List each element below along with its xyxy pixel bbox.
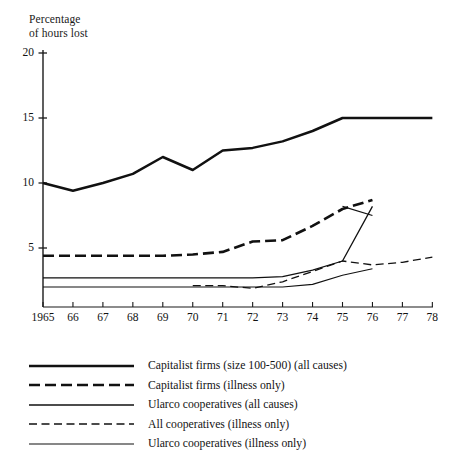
series-line [193,257,433,288]
legend-label: Ularco cooperatives (all causes) [148,398,298,411]
legend-capitalist-illness: Capitalist firms (illness only) [0,376,458,396]
legend-ularco-all-causes: Ularco cooperatives (all causes) [0,395,458,415]
chart-figure: Percentage of hours lost 5101520 1965666… [0,0,458,460]
series-line-tail [343,206,373,215]
legend-label: All cooperatives (illness only) [148,418,289,431]
chart-legend: Capitalist firms (size 100-500) (all cau… [0,356,458,454]
legend-capitalist-all-causes: Capitalist firms (size 100-500) (all cau… [0,356,458,376]
legend-line-sample [29,438,134,450]
y-tick-label: 10 [8,176,34,188]
x-tick-marks [43,302,432,307]
series-line [43,118,432,191]
plot-area: 5101520 196566676869707172737475767778 [0,0,458,330]
legend-all-coops-illness: All cooperatives (illness only) [0,415,458,435]
y-tick-label: 5 [8,241,34,253]
legend-line-sample [29,360,134,372]
axes-group [39,50,434,307]
legend-label: Ularco cooperatives (illness only) [148,437,306,450]
legend-line-sample [29,399,134,411]
y-tick-label: 20 [8,46,34,58]
series-line [43,206,372,278]
x-tick-label: 78 [410,311,454,323]
data-series-group [43,118,432,288]
series-line [43,200,372,256]
plot-svg [0,0,458,330]
legend-line-sample [29,418,134,430]
y-tick-label: 15 [8,111,34,123]
legend-line-sample [29,379,134,391]
legend-label: Capitalist firms (illness only) [148,379,285,392]
legend-ularco-illness: Ularco cooperatives (illness only) [0,434,458,454]
legend-label: Capitalist firms (size 100-500) (all cau… [148,359,347,372]
